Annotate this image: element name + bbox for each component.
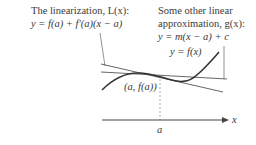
curve-label: y = f(x): [170, 45, 202, 58]
other-approximation-title-2: approximation, g(x):: [158, 17, 245, 30]
other-approximation-equation: y = m(x − a) + c: [158, 30, 245, 43]
other-approximation-label: Some other linear approximation, g(x): y…: [158, 4, 245, 43]
other-approximation-title-1: Some other linear: [158, 4, 245, 17]
x-axis-arrow-icon: [222, 117, 229, 123]
linearization-equation: y = f(a) + f′(a)(x − a): [31, 17, 129, 30]
linearization-label: The linearization, L(x): y = f(a) + f′(a…: [31, 4, 129, 30]
linearization-pointer: [100, 33, 105, 66]
point-label: (a, f(a)): [124, 80, 157, 93]
x-axis-label: x: [232, 113, 237, 126]
a-tick-label: a: [157, 123, 162, 136]
linearization-title: The linearization, L(x):: [31, 4, 129, 17]
